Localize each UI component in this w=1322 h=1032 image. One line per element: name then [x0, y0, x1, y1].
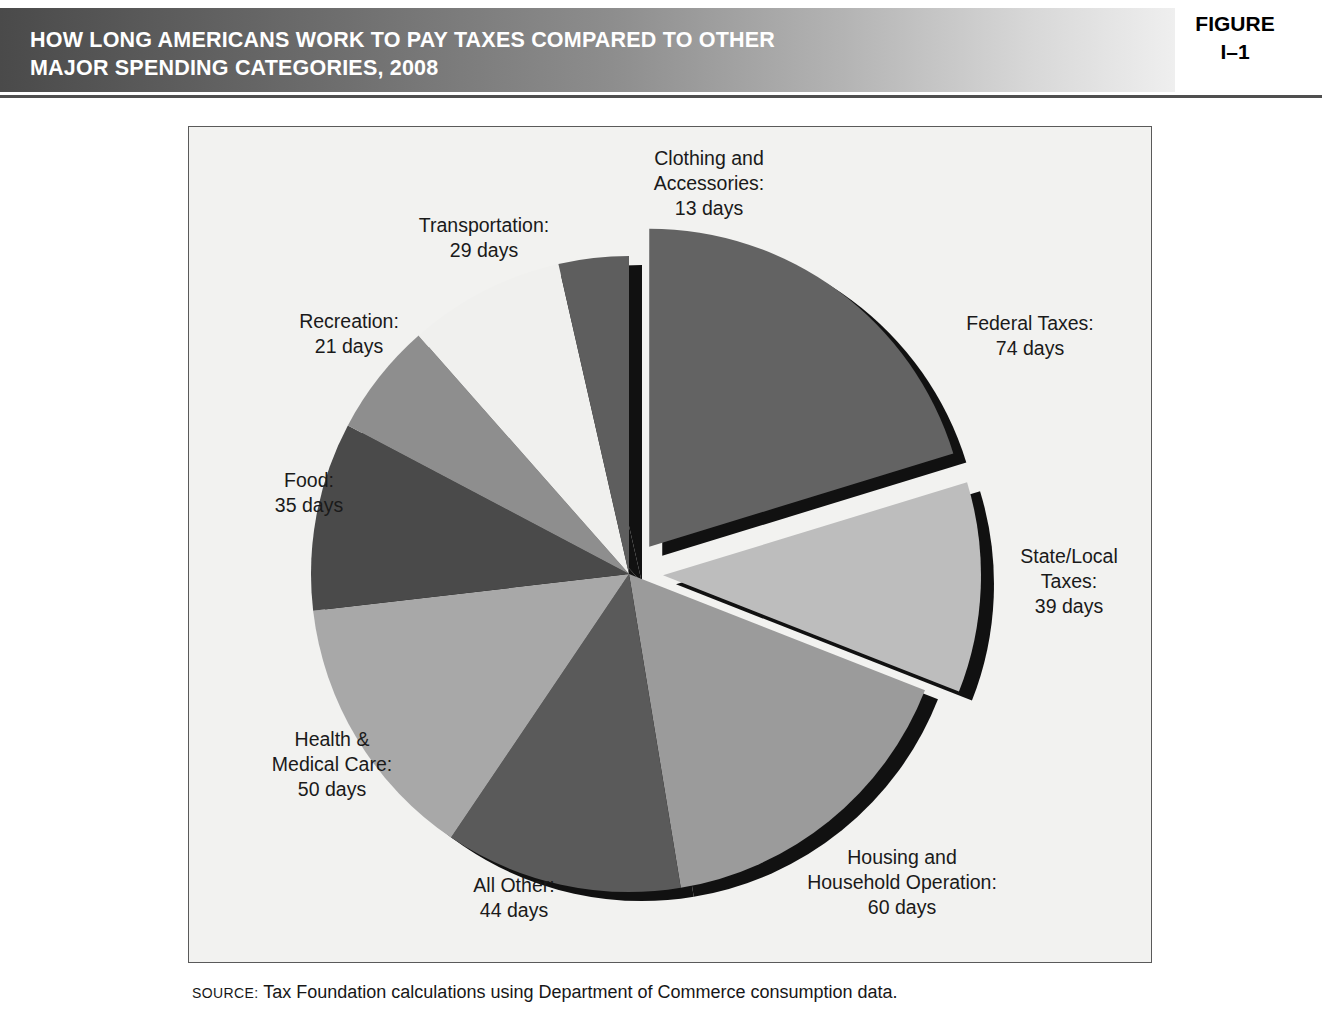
pie-label-housing-line-2: Household Operation: [757, 870, 1047, 895]
pie-label-clothing-line-3: 13 days [584, 196, 834, 221]
source-note: SOURCE: Tax Foundation calculations usin… [192, 982, 898, 1003]
pie-label-recreation-line-2: 21 days [224, 334, 474, 359]
pie-label-recreation-line-1: Recreation: [224, 309, 474, 334]
page-title: HOW LONG AMERICANS WORK TO PAY TAXES COM… [30, 26, 930, 82]
pie-label-transportation-line-2: 29 days [359, 238, 609, 263]
pie-label-health-medical-line-1: Health & [207, 727, 457, 752]
source-label: SOURCE: [192, 985, 259, 1001]
pie-label-transportation-line-1: Transportation: [359, 213, 609, 238]
source-text: Tax Foundation calculations using Depart… [259, 982, 898, 1002]
pie-label-state-local-taxes: State/Local Taxes: 39 days [969, 544, 1169, 619]
figure-number: I–1 [1170, 38, 1300, 66]
pie-label-clothing-line-2: Accessories: [584, 171, 834, 196]
pie-label-clothing: Clothing and Accessories: 13 days [584, 146, 834, 221]
pie-label-food-line-1: Food: [189, 468, 429, 493]
pie-label-state-local-taxes-line-2: Taxes: [969, 569, 1169, 594]
figure-label: FIGURE I–1 [1170, 10, 1300, 66]
pie-label-federal-taxes: Federal Taxes: 74 days [905, 311, 1155, 361]
pie-label-health-medical-line-3: 50 days [207, 777, 457, 802]
pie-label-federal-taxes-line-1: Federal Taxes: [905, 311, 1155, 336]
pie-label-federal-taxes-line-2: 74 days [905, 336, 1155, 361]
pie-label-transportation: Transportation: 29 days [359, 213, 609, 263]
pie-label-all-other-line-2: 44 days [389, 898, 639, 923]
pie-label-all-other: All Other: 44 days [389, 873, 639, 923]
pie-label-food: Food: 35 days [189, 468, 429, 518]
pie-label-recreation: Recreation: 21 days [224, 309, 474, 359]
pie-label-state-local-taxes-line-1: State/Local [969, 544, 1169, 569]
pie-label-food-line-2: 35 days [189, 493, 429, 518]
pie-slice-federal-taxes[interactable] [649, 229, 953, 547]
pie-label-state-local-taxes-line-3: 39 days [969, 594, 1169, 619]
pie-label-clothing-line-1: Clothing and [584, 146, 834, 171]
page-title-line-2: MAJOR SPENDING CATEGORIES, 2008 [30, 54, 930, 82]
pie-label-all-other-line-1: All Other: [389, 873, 639, 898]
header-divider [0, 95, 1322, 98]
chart-panel: Federal Taxes: 74 days State/Local Taxes… [188, 126, 1152, 963]
page-title-line-1: HOW LONG AMERICANS WORK TO PAY TAXES COM… [30, 26, 930, 54]
pie-label-health-medical-line-2: Medical Care: [207, 752, 457, 777]
header-band: HOW LONG AMERICANS WORK TO PAY TAXES COM… [0, 8, 1175, 92]
pie-label-housing-line-1: Housing and [757, 845, 1047, 870]
pie-label-housing-line-3: 60 days [757, 895, 1047, 920]
pie-label-health-medical: Health & Medical Care: 50 days [207, 727, 457, 802]
pie-label-housing: Housing and Household Operation: 60 days [757, 845, 1047, 920]
figure-word: FIGURE [1195, 12, 1274, 35]
